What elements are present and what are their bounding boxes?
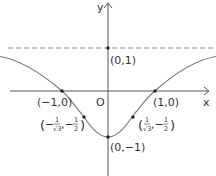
svg-text:1: 1 (74, 116, 78, 124)
label-inflection-right: ( 1 √3 ,− 1 2 ) (138, 116, 175, 133)
svg-text:1: 1 (145, 116, 149, 124)
point-neg1-0 (60, 89, 63, 92)
y-axis-label: y (97, 1, 104, 14)
graph-canvas: y x O (0,1) (−1,0) (1,0) (0,−1) ( − 1 √3… (0, 0, 216, 176)
label-0-neg1: (0,−1) (110, 141, 145, 154)
point-inflection-right (131, 115, 134, 118)
label-0-1: (0,1) (110, 54, 136, 67)
label-neg1-0: (−1,0) (37, 96, 72, 109)
svg-text:2: 2 (74, 125, 78, 133)
svg-text:1: 1 (164, 116, 168, 124)
svg-text:): ) (170, 118, 175, 133)
x-axis-label: x (203, 96, 210, 109)
svg-text:2: 2 (164, 125, 168, 133)
svg-text:,−: ,− (61, 118, 74, 131)
point-0-neg1 (106, 135, 109, 138)
svg-text:1: 1 (55, 116, 59, 124)
point-1-0 (153, 89, 156, 92)
origin-label: O (96, 96, 105, 109)
label-inflection-left: ( − 1 √3 ,− 1 2 ) (40, 116, 85, 133)
label-1-0: (1,0) (153, 96, 179, 109)
svg-text:,−: ,− (151, 118, 164, 131)
point-0-1 (106, 46, 109, 49)
svg-text:): ) (80, 118, 85, 133)
